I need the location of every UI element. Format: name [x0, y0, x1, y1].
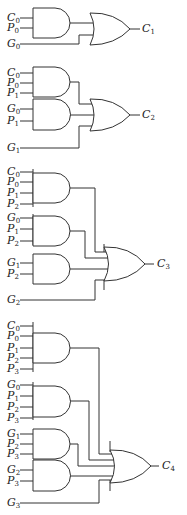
and-gate: [33, 8, 70, 38]
output-c1: C1: [142, 22, 155, 36]
output-c2: C2: [142, 108, 155, 122]
svg-text:G2: G2: [7, 293, 20, 307]
svg-text:G0: G0: [7, 37, 20, 51]
or-gate: [104, 247, 145, 281]
and-gate: [33, 173, 70, 203]
and-gate: [33, 429, 70, 459]
and-gate: [33, 386, 71, 417]
circuit-c4: C0 P0 P1 P2 P3 G0 P1 P2 P3 G1 P2 P3 G2 P…: [6, 319, 175, 510]
and-gate: [33, 333, 70, 363]
or-gate: [90, 99, 130, 131]
circuit-c1: C0 P0 G0 C1: [6, 8, 155, 51]
svg-text:P1: P1: [6, 114, 19, 128]
svg-text:G1: G1: [7, 141, 20, 155]
svg-text:P2: P2: [6, 234, 19, 248]
circuit-c3: C0 P0 P1 P2 G0 P1 P2 G1 P2 G2 C3: [6, 165, 170, 307]
carry-lookahead-diagram: C0 P0 G0 C1 C0 P0 P1 G0 P1 G1 C2: [0, 0, 187, 515]
and-gate: [33, 460, 71, 491]
svg-text:G3: G3: [7, 496, 20, 510]
and-gate: [33, 216, 70, 246]
output-c3: C3: [157, 257, 170, 271]
circuit-c2: C0 P0 P1 G0 P1 G1 C2: [6, 66, 155, 155]
and-gate: [33, 99, 71, 130]
and-gate: [33, 254, 70, 284]
or-gate: [110, 450, 151, 483]
output-c4: C4: [162, 459, 175, 473]
or-gate: [90, 13, 130, 45]
and-gate: [33, 67, 70, 97]
